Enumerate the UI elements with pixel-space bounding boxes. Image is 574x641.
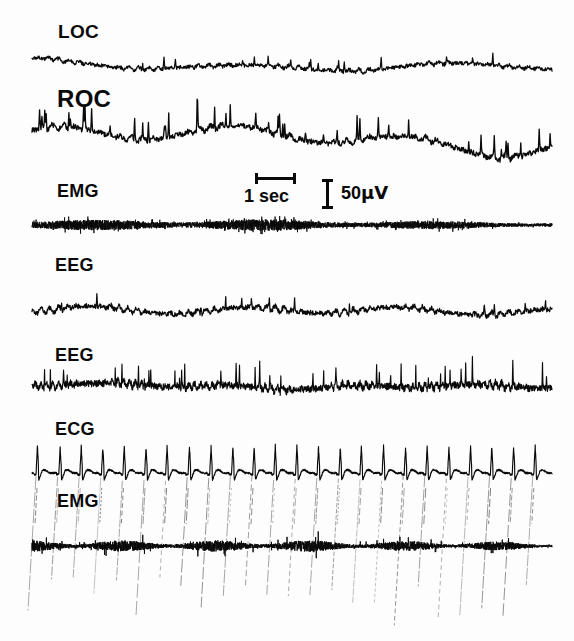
channel-label-ecg: ECG <box>55 420 95 438</box>
ecg-artifact-streak <box>332 479 339 590</box>
ecg-artifact-streak <box>418 476 425 587</box>
trace-ecg <box>32 444 552 480</box>
amplitude-scalebar-cap-top <box>322 179 333 182</box>
ecg-artifact-streak <box>294 488 296 524</box>
ecg-artifact-streak <box>223 476 230 596</box>
ecg-artifact-streak <box>510 488 512 524</box>
channel-label-eeg-1: EEG <box>55 256 94 274</box>
ecg-artifact-streak <box>445 488 447 524</box>
ecg-artifact-streak <box>251 488 253 524</box>
time-scale-label: 1 sec <box>244 187 289 205</box>
trace-loc <box>32 53 552 74</box>
channel-label-roc: ROC <box>57 87 111 111</box>
ecg-artifact-streak <box>273 488 275 524</box>
channel-label-emg-bottom: EMG <box>57 492 99 510</box>
channel-label-eeg-2: EEG <box>55 346 94 364</box>
trace-emg-top <box>32 216 552 234</box>
ecg-artifact-streak <box>526 475 533 585</box>
ecg-artifact-streak <box>117 481 123 581</box>
channel-label-loc: LOC <box>58 22 99 41</box>
amplitude-scalebar-cap-bottom <box>322 206 333 209</box>
ecg-artifact-streak <box>181 477 187 586</box>
ecg-artifact-streak <box>160 481 166 578</box>
time-scalebar <box>255 177 296 180</box>
amplitude-scalebar <box>326 179 329 209</box>
time-scalebar-cap-left <box>255 173 258 184</box>
channel-label-emg-top: EMG <box>57 182 99 200</box>
polysomnogram-figure: LOC ROC EMG EEG EEG ECG EMG 1 sec 50µV <box>0 0 574 641</box>
trace-eeg-2 <box>32 356 552 395</box>
ecg-artifact-streak <box>186 488 188 524</box>
ecg-artifact-streak <box>165 488 167 524</box>
trace-eeg-1 <box>32 294 552 319</box>
amplitude-scale-unit: µV <box>361 182 388 203</box>
trace-paths <box>32 53 552 558</box>
ecg-artifact-streak <box>267 480 274 595</box>
ecg-artifact-streak <box>353 479 360 602</box>
amplitude-scale-value: 50 <box>341 183 361 203</box>
time-scalebar-cap-right <box>293 173 296 184</box>
ecg-artifact-streaks <box>28 475 534 625</box>
ecg-artifact-streak <box>316 488 318 524</box>
ecg-artifact-streak <box>100 488 102 524</box>
ecg-artifact-streak <box>288 479 295 596</box>
amplitude-scale-label: 50µV <box>341 184 388 202</box>
ecg-artifact-streak <box>438 479 446 618</box>
ecg-artifact-streak <box>374 481 381 605</box>
ecg-artifact-streak <box>246 475 253 585</box>
